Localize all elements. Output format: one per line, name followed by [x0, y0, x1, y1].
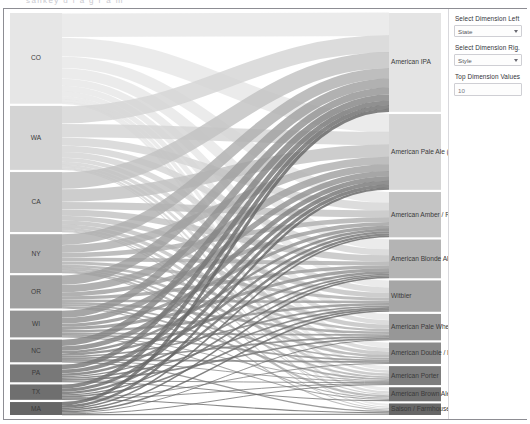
- sankey-node-CA[interactable]: [10, 172, 62, 232]
- sankey-node-WI[interactable]: [10, 311, 62, 338]
- controls-panel: Select Dimension Left State Select Dimen…: [448, 9, 527, 419]
- sankey-plot: COWACANYORWINCPATXMAAmerican IPAAmerican…: [4, 9, 448, 419]
- select-dimension-right-dropdown[interactable]: Style: [454, 54, 522, 66]
- select-dimension-right-label: Select Dimension Rig.: [455, 44, 522, 51]
- select-dimension-left-label: Select Dimension Left: [455, 15, 522, 22]
- sankey-node-witbier[interactable]: [389, 280, 441, 311]
- sankey-node-NY[interactable]: [10, 234, 62, 273]
- sankey-node-american-ipa[interactable]: [389, 13, 441, 112]
- select-dimension-left-dropdown[interactable]: State: [454, 25, 522, 37]
- sankey-node-american-blonde-ale[interactable]: [389, 240, 441, 279]
- chart-frame: COWACANYORWINCPATXMAAmerican IPAAmerican…: [3, 8, 527, 420]
- sankey-link[interactable]: [62, 131, 389, 139]
- chevron-down-icon: [514, 30, 518, 33]
- control-select-dimension-left: Select Dimension Left State: [454, 15, 522, 37]
- top-clipped-text-label: sankey d i a g r a m: [26, 0, 124, 5]
- sankey-node-american-double-imperial[interactable]: [389, 343, 441, 364]
- top-dimension-values-input[interactable]: 10: [454, 83, 522, 96]
- sankey-link[interactable]: [62, 24, 389, 25]
- select-dimension-right-value: Style: [458, 57, 472, 64]
- sankey-app: sankey d i a g r a m COWACANYORWINCPATXM…: [0, 0, 530, 424]
- spacer-1: [454, 37, 522, 44]
- sankey-node-OR[interactable]: [10, 275, 62, 308]
- sankey-node-TX[interactable]: [10, 384, 62, 399]
- sankey-node-american-pale-ale[interactable]: [389, 114, 441, 190]
- spacer-2: [454, 66, 522, 73]
- sankey-svg: [4, 9, 448, 419]
- sankey-node-WA[interactable]: [10, 106, 62, 170]
- top-dimension-values-label: Top Dimension Values: [455, 73, 522, 80]
- select-dimension-left-value: State: [458, 28, 472, 35]
- sankey-node-PA[interactable]: [10, 364, 62, 382]
- top-dimension-values-value: 10: [458, 87, 465, 94]
- sankey-node-american-pale-wheat[interactable]: [389, 314, 441, 340]
- sankey-node-MA[interactable]: [10, 402, 62, 415]
- sankey-node-saison-farmhouse-ale[interactable]: [389, 403, 441, 415]
- sankey-node-american-porter[interactable]: [389, 366, 441, 385]
- sankey-node-NC[interactable]: [10, 340, 62, 363]
- sankey-node-american-amber-red[interactable]: [389, 192, 441, 237]
- sankey-node-american-brown-ale[interactable]: [389, 387, 441, 401]
- control-select-dimension-right: Select Dimension Rig. Style: [454, 44, 522, 66]
- control-top-dimension-values: Top Dimension Values 10: [454, 73, 522, 96]
- top-clipped-text: sankey d i a g r a m: [0, 0, 530, 7]
- chevron-down-icon: [514, 59, 518, 62]
- sankey-node-CO[interactable]: [10, 13, 62, 104]
